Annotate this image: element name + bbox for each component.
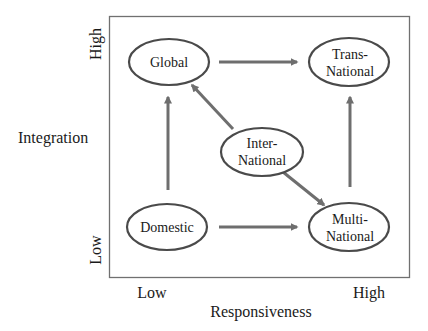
arrow-international-to-global bbox=[192, 85, 233, 129]
node-multinational-label-line2: National bbox=[326, 229, 374, 244]
node-transnational-label-line2: National bbox=[326, 64, 374, 79]
node-multinational: Multi- National bbox=[309, 203, 389, 251]
y-axis-title: Integration bbox=[18, 129, 88, 147]
node-transnational-label-line1: Trans- bbox=[332, 47, 368, 62]
x-axis-low-label: Low bbox=[137, 284, 167, 301]
node-global: Global bbox=[129, 39, 209, 85]
node-international: Inter- National bbox=[221, 128, 303, 176]
strategy-matrix-diagram: High Low Integration Low High Responsive… bbox=[0, 0, 428, 331]
x-axis-high-label: High bbox=[353, 284, 385, 302]
node-transnational: Trans- National bbox=[309, 38, 389, 86]
node-multinational-label-line1: Multi- bbox=[332, 212, 368, 227]
node-international-label-line2: National bbox=[238, 153, 286, 168]
node-domestic-label: Domestic bbox=[140, 220, 194, 235]
node-international-label-line1: Inter- bbox=[247, 136, 278, 151]
arrow-international-to-multinational bbox=[283, 172, 324, 205]
x-axis-title: Responsiveness bbox=[210, 303, 311, 321]
y-axis-high-label: High bbox=[87, 28, 105, 60]
node-domestic: Domestic bbox=[127, 204, 207, 250]
y-axis-low-label: Low bbox=[87, 235, 104, 265]
node-global-label: Global bbox=[150, 55, 188, 70]
